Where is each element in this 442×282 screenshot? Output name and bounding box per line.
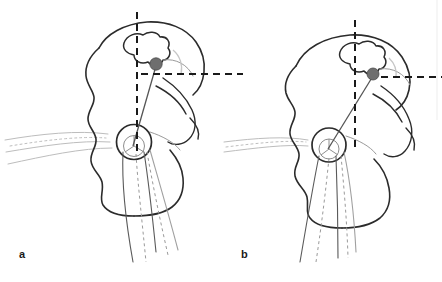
- panel-b-landmark-dot: [367, 68, 379, 80]
- panel-label-a: a: [19, 249, 25, 260]
- illustration-svg: [0, 0, 442, 282]
- figure-container: a b: [0, 0, 442, 282]
- figure-background: [0, 0, 442, 282]
- panel-a-landmark-dot: [150, 58, 162, 70]
- panel-label-b: b: [241, 249, 248, 260]
